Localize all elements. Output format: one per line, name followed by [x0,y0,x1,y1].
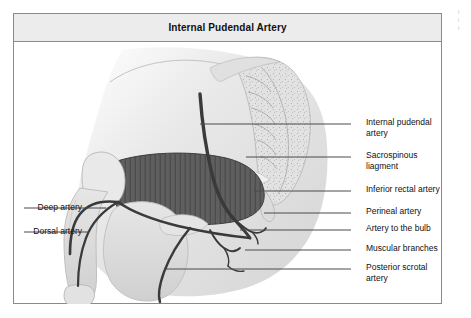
label-perineal-artery: Perineal artery [366,206,452,217]
label-artery-to-the-bulb: Artery to the bulb [366,223,452,234]
page-title: Internal Pudendal Artery [168,22,286,33]
label-muscular-branches: Muscular branches [366,243,452,254]
figure-frame: Internal Pudendal Artery [13,13,442,304]
label-dorsal-artery: Dorsal artery [14,226,82,237]
glans-penis [64,285,95,304]
figure-title-bar: Internal Pudendal Artery [14,14,441,42]
label-sacrospinous-liagment: Sacrospinous liagment [366,150,444,171]
label-internal-pudendal-artery: Internal pudendal artery [366,117,444,138]
label-inferior-rectal-artery: Inferior rectal artery [366,184,452,195]
label-deep-artery: Deep artery [14,202,82,213]
label-posterior-scrotal-artery: Posterior scrotal artery [366,262,446,283]
page-margin-note: I i r [458,8,471,32]
